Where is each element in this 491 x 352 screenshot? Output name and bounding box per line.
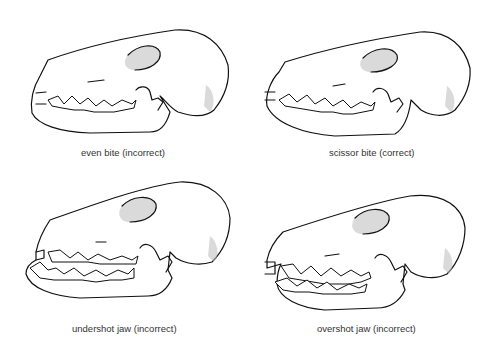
- panel-scissor-bite: scissor bite (correct): [245, 0, 490, 176]
- caption-overshot-jaw: overshot jaw (incorrect): [317, 323, 416, 334]
- caption-even-bite: even bite (incorrect): [81, 147, 165, 158]
- caption-scissor-bite: scissor bite (correct): [329, 147, 415, 158]
- panel-even-bite: even bite (incorrect): [0, 0, 245, 176]
- panel-overshot-jaw: overshot jaw (incorrect): [245, 176, 490, 352]
- caption-undershot-jaw: undershot jaw (incorrect): [72, 323, 177, 334]
- panel-undershot-jaw: undershot jaw (incorrect): [0, 176, 245, 352]
